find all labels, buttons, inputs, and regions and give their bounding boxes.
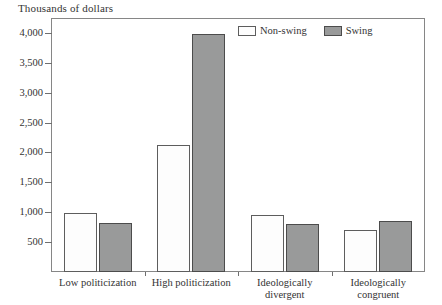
legend-item-nonswing: Non-swing	[238, 25, 307, 36]
x-axis-category-label: Ideologically divergent	[238, 277, 332, 300]
y-axis-tick-label: 2,000	[19, 147, 43, 157]
y-axis-tick-label: 1,500	[19, 177, 43, 187]
y-axis-title: Thousands of dollars	[18, 2, 113, 14]
bar-swing	[192, 34, 225, 272]
y-axis-tick-label: 3,000	[19, 88, 43, 98]
chart-legend: Non-swingSwing	[238, 25, 373, 36]
y-axis-tick-label: 500	[27, 237, 43, 247]
bar-nonswing	[344, 230, 377, 272]
x-axis-group-separator	[332, 272, 333, 276]
legend-item-swing: Swing	[324, 25, 373, 36]
y-axis-tick-label: 3,500	[19, 58, 43, 68]
legend-label: Swing	[346, 25, 373, 36]
x-axis-group-separator	[238, 272, 239, 276]
legend-swatch-icon	[238, 26, 256, 36]
bar-swing	[286, 224, 319, 272]
y-axis-tick-label: 4,000	[19, 28, 43, 38]
x-axis-category-label: High politicization	[145, 277, 239, 289]
bar-nonswing	[251, 215, 284, 272]
y-axis-tick-label: 2,500	[19, 118, 43, 128]
x-axis-group-separator	[145, 272, 146, 276]
bar-nonswing	[64, 213, 97, 272]
bar-chart-figure: Thousands of dollars 5001,0001,5002,0002…	[0, 0, 442, 305]
x-axis-category-label: Low politicization	[51, 277, 145, 289]
bar-swing	[379, 221, 412, 272]
plot-area	[51, 18, 425, 272]
x-axis-category-label: Ideologically congruent	[332, 277, 426, 300]
bar-nonswing	[157, 145, 190, 272]
legend-swatch-icon	[324, 26, 342, 36]
legend-label: Non-swing	[260, 25, 307, 36]
bar-swing	[99, 223, 132, 272]
y-axis-tick-label: 1,000	[19, 207, 43, 217]
